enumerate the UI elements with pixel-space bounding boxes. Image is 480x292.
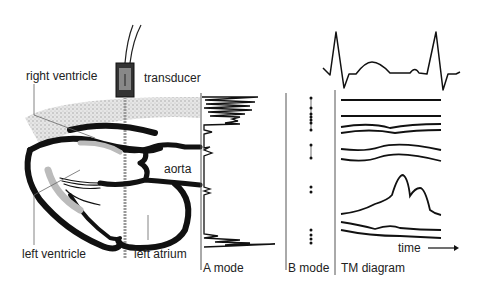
label-tm-diagram: TM diagram: [341, 262, 405, 274]
label-b-mode: B mode: [288, 262, 329, 274]
time-arrow-icon: [428, 245, 459, 251]
heart-illustration: [28, 126, 200, 249]
label-right-ventricle: right ventricle: [26, 70, 97, 82]
transducer-cable: [125, 25, 141, 63]
label-aorta: aorta: [164, 163, 191, 175]
label-time: time: [398, 242, 421, 254]
label-transducer: transducer: [144, 72, 201, 84]
label-left-ventricle: left ventricle: [22, 248, 86, 260]
ecg-trace: [323, 32, 460, 90]
b-mode-dots: [310, 97, 313, 245]
a-mode-trace: [202, 97, 275, 247]
label-a-mode: A mode: [203, 262, 244, 274]
transducer-icon: [116, 63, 134, 97]
tm-motion-lines: [341, 100, 441, 238]
chest-wall: [25, 97, 200, 145]
label-left-atrium: left atrium: [134, 248, 187, 260]
